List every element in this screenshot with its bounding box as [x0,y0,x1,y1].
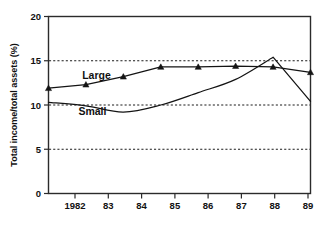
y-tick-label-15: 15 [30,55,41,66]
x-tick-label-84: 84 [136,200,147,211]
series-label-small: Small [78,105,106,117]
y-tick-label-20: 20 [30,11,41,22]
series-label-large: Large [82,69,111,81]
x-tick-label-88: 88 [269,200,280,211]
y-tick-label-5: 5 [36,144,42,155]
x-tick-label-86: 86 [203,200,214,211]
x-tick-label-89: 89 [303,200,314,211]
y-axis-title: Total income/total assets (%) [9,43,19,166]
x-tick-label-1982: 1982 [64,200,85,211]
y-tick-label-0: 0 [36,188,41,199]
y-tick-label-10: 10 [30,100,41,111]
x-tick-label-83: 83 [103,200,114,211]
x-tick-label-85: 85 [170,200,181,211]
chart-background [0,0,330,225]
chart-container: Total income/total assets (%) 20 15 10 5… [0,0,330,225]
x-tick-label-87: 87 [236,200,247,211]
line-chart: Total income/total assets (%) 20 15 10 5… [0,0,330,225]
